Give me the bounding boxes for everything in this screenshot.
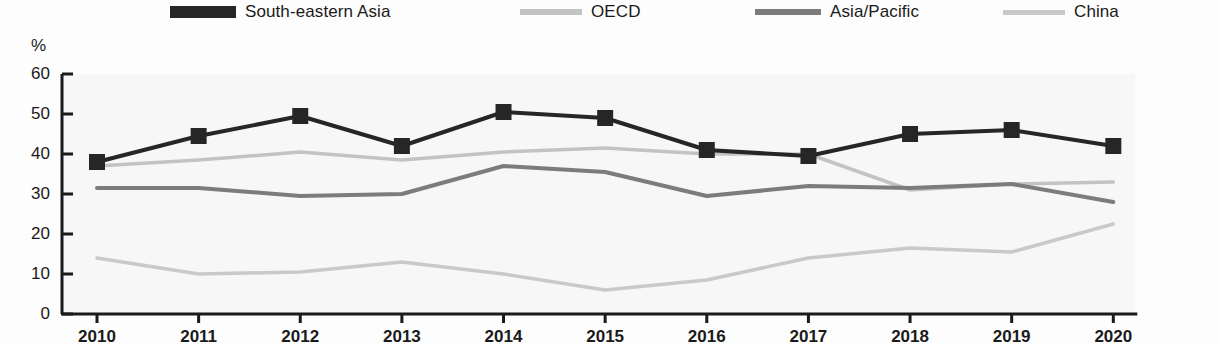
data-point-marker	[191, 128, 207, 144]
plot-area	[0, 0, 1220, 345]
x-axis-tick-label: 2016	[662, 328, 752, 345]
x-axis-tick-label: 2017	[763, 328, 853, 345]
data-point-marker	[699, 142, 715, 158]
y-axis-tick-label: 50	[16, 105, 50, 122]
data-point-marker	[1105, 138, 1121, 154]
y-axis-tick-label: 40	[16, 145, 50, 162]
x-axis-tick-label: 2012	[255, 328, 345, 345]
x-axis-tick-label: 2020	[1068, 328, 1158, 345]
x-axis-tick-label: 2018	[865, 328, 955, 345]
y-axis-tick-label: 0	[16, 305, 50, 322]
x-axis-tick-label: 2014	[459, 328, 549, 345]
y-axis-tick-label: 20	[16, 225, 50, 242]
data-point-marker	[89, 154, 105, 170]
data-point-marker	[292, 108, 308, 124]
line-chart: South-eastern Asia OECD Asia/Pacific Chi…	[0, 0, 1220, 345]
x-axis-tick-label: 2015	[560, 328, 650, 345]
y-axis-tick-label: 60	[16, 65, 50, 82]
x-axis-tick-label: 2011	[154, 328, 244, 345]
x-axis-tick-label: 2019	[967, 328, 1057, 345]
y-axis-tick-label: 30	[16, 185, 50, 202]
x-axis-tick-label: 2010	[52, 328, 142, 345]
x-axis-tick-label: 2013	[357, 328, 447, 345]
y-axis-tick-label: 10	[16, 265, 50, 282]
data-point-marker	[902, 126, 918, 142]
data-point-marker	[800, 148, 816, 164]
data-point-marker	[394, 138, 410, 154]
data-point-marker	[496, 104, 512, 120]
data-point-marker	[1004, 122, 1020, 138]
data-point-marker	[597, 110, 613, 126]
